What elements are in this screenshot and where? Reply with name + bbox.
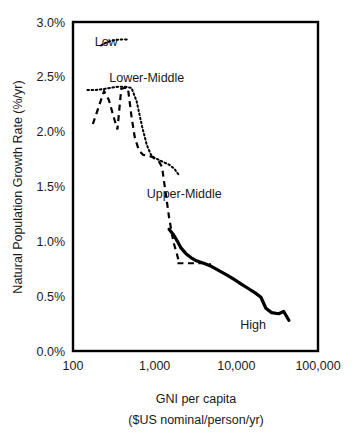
series-label-upper-middle: Upper-Middle xyxy=(147,187,222,201)
y-tick-label: 2.5% xyxy=(37,70,66,84)
x-tick-label: 1,000 xyxy=(139,359,170,373)
series-label-lower-middle: Lower-Middle xyxy=(109,71,184,85)
chart-background xyxy=(0,0,355,443)
y-tick-label: 0.5% xyxy=(37,290,66,304)
x-tick-label: 100 xyxy=(63,359,84,373)
population-growth-chart: 0.0%0.5%1.0%1.5%2.0%2.5%3.0% 1001,00010,… xyxy=(0,0,355,443)
y-axis-title: Natural Population Growth Rate (%/yr) xyxy=(11,80,25,293)
y-tick-label: 1.5% xyxy=(37,180,66,194)
x-axis-title-line1: GNI per capita xyxy=(156,392,237,406)
x-tick-label: 100,000 xyxy=(295,359,340,373)
series-label-high: High xyxy=(240,318,266,332)
y-tick-label: 2.0% xyxy=(37,125,66,139)
y-tick-label: 3.0% xyxy=(37,16,66,30)
x-axis-title-line2: ($US nominal/person/yr) xyxy=(128,413,263,427)
x-tick-label: 10,000 xyxy=(217,359,255,373)
y-tick-label: 0.0% xyxy=(37,345,66,359)
chart-canvas: 0.0%0.5%1.0%1.5%2.0%2.5%3.0% 1001,00010,… xyxy=(0,0,355,443)
y-tick-label: 1.0% xyxy=(37,235,66,249)
